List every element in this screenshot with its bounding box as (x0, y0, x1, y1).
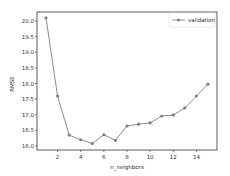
x-axis-label: n_neighbors (110, 164, 144, 171)
y-tick-label: 16.5 (22, 127, 35, 133)
x-tick-label: 4 (79, 154, 83, 160)
data-point (149, 121, 152, 124)
x-tick-label: 14 (193, 154, 200, 160)
x-axis: 2468101214 (56, 150, 201, 160)
data-point (206, 83, 209, 86)
y-tick-label: 20.0 (22, 18, 35, 24)
line-chart: 16.016.517.017.518.018.519.019.520.0 246… (0, 0, 230, 176)
data-point (79, 138, 82, 141)
data-point (56, 94, 59, 97)
y-tick-label: 19.0 (22, 49, 35, 55)
y-tick-label: 18.0 (22, 81, 35, 87)
data-point (160, 114, 163, 117)
data-point (102, 133, 105, 136)
y-tick-label: 19.5 (22, 34, 35, 40)
data-point (137, 123, 140, 126)
legend-marker-icon (177, 18, 180, 21)
x-tick-label: 12 (170, 154, 177, 160)
data-point (44, 16, 47, 19)
y-tick-label: 17.0 (22, 112, 35, 118)
x-tick-label: 6 (102, 154, 106, 160)
y-tick-label: 17.5 (22, 96, 35, 102)
y-tick-label: 18.5 (22, 65, 35, 71)
plot-area (37, 12, 217, 150)
y-tick-label: 16.0 (22, 143, 35, 149)
data-point (68, 133, 71, 136)
data-point (91, 142, 94, 145)
y-axis-label: RMSE (9, 76, 15, 92)
data-point (172, 113, 175, 116)
legend-label: validation (188, 17, 216, 23)
legend: validation (169, 13, 216, 27)
data-point (114, 139, 117, 142)
y-axis: 16.016.517.017.518.018.519.019.520.0 (22, 18, 37, 149)
data-point (125, 124, 128, 127)
x-tick-label: 10 (147, 154, 154, 160)
data-point (183, 106, 186, 109)
data-point (195, 94, 198, 97)
x-tick-label: 2 (56, 154, 60, 160)
x-tick-label: 8 (125, 154, 129, 160)
